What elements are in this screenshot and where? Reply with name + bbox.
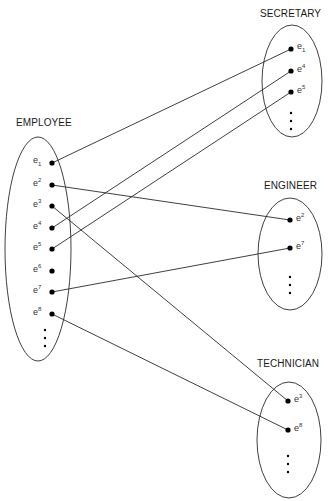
ellipsis-dot-secretary-0 [290, 112, 292, 114]
set-label-secretary: SECRETARY [260, 8, 321, 19]
element-subscript: 1 [38, 161, 41, 167]
set-label-technician: TECHNICIAN [257, 358, 319, 369]
element-dot-technician-e8 [285, 427, 290, 432]
element-dot-secretary-e5 [288, 89, 293, 94]
element-dot-employee-e1 [49, 160, 54, 165]
ellipsis-dot-engineer-1 [289, 284, 291, 286]
element-label-employee-e6: e6 [33, 263, 41, 274]
set-ellipses [5, 25, 322, 498]
ellipsis-dot-secretary-1 [290, 120, 292, 122]
element-label-secretary-e4: e4 [297, 63, 305, 74]
ellipsis-dot-employee-1 [44, 337, 46, 339]
element-dots [44, 46, 294, 473]
mapping-line-employee-e1-to-secretary-e1 [52, 49, 291, 163]
mapping-lines [52, 49, 291, 430]
element-label-employee-e3: e3 [33, 198, 41, 209]
element-dot-employee-e6 [49, 268, 54, 273]
element-superscript: 3 [299, 393, 302, 399]
element-subscript: 1 [302, 47, 305, 53]
ellipsis-dot-technician-1 [287, 463, 289, 465]
diagram-canvas [0, 0, 328, 501]
ellipsis-dot-technician-0 [287, 455, 289, 457]
ellipsis-dot-engineer-2 [289, 292, 291, 294]
mapping-line-employee-e5-to-secretary-e5 [52, 92, 291, 249]
element-superscript: 7 [301, 240, 304, 246]
element-dot-employee-e3 [49, 203, 54, 208]
element-dot-employee-e4 [49, 225, 54, 230]
element-label-secretary-e1: e1 [297, 41, 305, 53]
element-dot-secretary-e4 [288, 68, 293, 73]
mapping-line-employee-e2-to-engineer-e2 [52, 185, 290, 220]
element-dot-employee-e5 [49, 246, 54, 251]
element-superscript: 3 [38, 198, 41, 204]
element-dot-employee-e7 [49, 289, 54, 294]
ellipsis-dot-engineer-0 [289, 276, 291, 278]
ellipsis-dot-secretary-2 [290, 128, 292, 130]
element-superscript: 4 [38, 220, 41, 226]
element-dot-engineer-e7 [287, 245, 292, 250]
ellipsis-dot-employee-2 [44, 345, 46, 347]
element-label-technician-e8: e8 [294, 422, 302, 433]
element-dot-engineer-e2 [287, 217, 292, 222]
element-dot-secretary-e1 [288, 46, 293, 51]
element-label-employee-e4: e4 [33, 220, 41, 231]
set-label-engineer: ENGINEER [264, 180, 317, 191]
element-label-employee-e1: e1 [33, 155, 41, 167]
element-label-employee-e5: e5 [33, 241, 41, 252]
element-label-secretary-e5: e5 [297, 84, 305, 95]
element-superscript: 5 [302, 84, 305, 90]
set-ellipse-secretary [262, 25, 322, 137]
element-label-engineer-e7: e7 [296, 240, 304, 251]
set-label-employee: EMPLOYEE [16, 117, 72, 128]
element-label-technician-e3: e3 [294, 393, 302, 404]
element-superscript: 2 [301, 212, 304, 218]
element-dot-employee-e8 [49, 311, 54, 316]
element-superscript: 5 [38, 241, 41, 247]
element-superscript: 7 [38, 284, 41, 290]
mapping-line-employee-e4-to-secretary-e4 [52, 71, 291, 228]
element-dot-technician-e3 [285, 398, 290, 403]
element-superscript: 6 [38, 263, 41, 269]
element-label-employee-e7: e7 [33, 284, 41, 295]
element-label-engineer-e2: e2 [296, 212, 304, 223]
element-label-employee-e8: e8 [33, 306, 41, 317]
element-superscript: 4 [302, 63, 305, 69]
ellipsis-dot-employee-0 [44, 329, 46, 331]
element-superscript: 8 [299, 422, 302, 428]
element-superscript: 2 [38, 177, 41, 183]
mapping-line-employee-e7-to-engineer-e7 [52, 248, 290, 292]
element-label-employee-e2: e2 [33, 177, 41, 188]
ellipsis-dot-technician-2 [287, 471, 289, 473]
element-dot-employee-e2 [49, 182, 54, 187]
element-superscript: 8 [38, 306, 41, 312]
